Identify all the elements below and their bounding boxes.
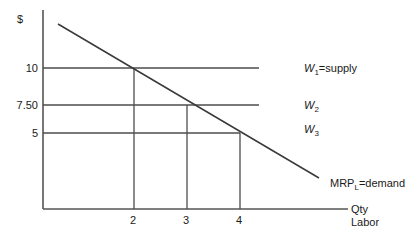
demand-curve-mrp [58,24,319,178]
y-tick-label-5: 5 [0,127,38,139]
y-tick-label-7-50: 7.50 [0,99,38,111]
annotation-w1-rest: =supply [319,62,357,74]
economics-labor-market-figure: $ 10 7.50 5 2 3 4 W1=supply W2 W3 MRPL=d… [0,0,411,238]
annotation-w2: W2 [304,99,319,116]
x-tick-label-4: 4 [236,214,242,226]
x-tick-label-3: 3 [183,214,189,226]
annotation-mrp-main: MRP [330,177,354,189]
annotation-w3-subscript: 3 [314,129,318,138]
y-axis-unit-label: $ [17,13,23,25]
annotation-w3: W3 [304,123,319,140]
x-axis-label-labor: Labor [351,216,379,228]
annotation-w1-variable: W [304,62,314,74]
annotation-w2-subscript: 2 [314,105,318,114]
annotation-w3-variable: W [304,123,314,135]
chart-plot-area [0,0,411,238]
annotation-mrp-rest: =demand [359,177,405,189]
annotation-mrp-demand: MRPL=demand [330,177,405,194]
annotation-w1-supply: W1=supply [304,62,357,79]
x-axis-label-qty: Qty [351,203,368,215]
x-tick-label-2: 2 [130,214,136,226]
y-tick-label-10: 10 [0,62,38,74]
annotation-w2-variable: W [304,99,314,111]
